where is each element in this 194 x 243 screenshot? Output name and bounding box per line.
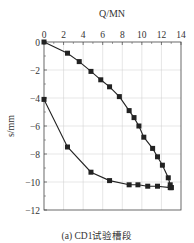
y-tick-label: 0	[35, 38, 40, 48]
data-point-marker	[42, 97, 47, 102]
data-point-marker	[166, 175, 171, 180]
data-point-marker	[150, 146, 155, 151]
data-point-marker	[155, 184, 160, 189]
data-point-marker	[145, 184, 150, 189]
data-point-marker	[107, 178, 112, 183]
y-tick-label: −2	[30, 66, 40, 76]
load-settlement-chart: 024681012140−2−4−6−8−10−12 Q/MN s/mm	[0, 0, 194, 243]
x-tick-label: 2	[61, 30, 66, 40]
data-point-marker	[65, 145, 70, 150]
y-tick-label: −8	[30, 150, 40, 160]
data-point-marker	[132, 115, 137, 120]
x-tick-label: 6	[100, 30, 105, 40]
x-tick-label: 0	[42, 30, 47, 40]
x-tick-label: 8	[120, 30, 125, 40]
data-point-marker	[160, 163, 165, 168]
y-tick-label: −10	[25, 178, 40, 188]
data-point-marker	[141, 135, 146, 140]
data-point-marker	[98, 77, 103, 82]
x-axis-label: Q/MN	[99, 8, 125, 19]
data-point-marker	[88, 170, 93, 175]
data-point-marker	[107, 84, 112, 89]
y-axis-label: s/mm	[5, 115, 16, 137]
data-point-marker	[77, 59, 82, 64]
x-tick-label: 12	[157, 30, 167, 40]
data-point-marker	[155, 154, 160, 159]
y-tick-label: −4	[30, 94, 40, 104]
data-point-marker	[65, 51, 70, 56]
x-tick-label: 10	[137, 30, 147, 40]
data-point-marker	[127, 108, 132, 113]
x-tick-label: 4	[81, 30, 86, 40]
data-point-marker	[42, 40, 47, 45]
series-line-loading	[44, 42, 171, 188]
y-tick-label: −12	[25, 206, 40, 216]
axis-ticks: 024681012140−2−4−6−8−10−12	[25, 30, 186, 216]
x-tick-label: 14	[176, 30, 186, 40]
figure-caption: (a) CD1试验槽段	[0, 228, 194, 242]
y-tick-label: −6	[30, 122, 40, 132]
data-point-marker	[117, 94, 122, 99]
data-point-marker	[127, 182, 132, 187]
data-point-marker	[169, 185, 174, 190]
data-point-marker	[135, 182, 140, 187]
grid-lines	[44, 42, 181, 210]
data-point-marker	[88, 69, 93, 74]
series-line-unloading	[44, 99, 171, 187]
data-point-marker	[136, 124, 141, 129]
data-series	[42, 40, 174, 191]
